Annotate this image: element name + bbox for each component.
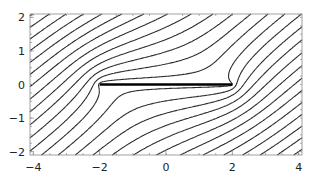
streamline [203,91,302,156]
streamline [243,114,302,155]
x-tick-label: 4 [295,161,302,174]
x-axis-ticks: −4−2024 [25,14,302,174]
y-tick-label: 2 [18,11,25,24]
y-tick-label: −2 [9,146,25,159]
streamline [30,14,66,39]
streamline [30,14,122,75]
streamline [112,40,302,155]
streamline [30,14,84,51]
streamline [294,149,302,155]
streamline [30,14,144,87]
y-tick-label: 0 [18,79,25,92]
x-tick-label: 0 [163,161,170,174]
streamline [30,14,233,138]
x-tick-label: −2 [92,161,108,174]
x-tick-label: −4 [25,161,41,174]
streamline [30,14,49,28]
y-tick-label: −1 [9,112,25,125]
streamline-plot: −4−2024 210−1−2 [0,0,317,181]
streamline [133,53,302,155]
x-tick-label: 2 [229,161,236,174]
streamline [30,14,102,63]
y-tick-label: 1 [18,45,25,58]
streamline [30,14,191,112]
